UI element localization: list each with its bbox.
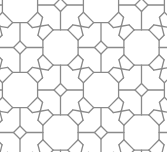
pentagon-edge [81,67,89,68]
pentagon-edge [89,67,94,72]
pentagon-edge [89,23,94,28]
pentagon-edge [38,97,43,102]
pentagon-edge [73,25,81,26]
pentagon-edge [78,69,80,78]
pentagon-edge [38,120,43,125]
pentagon-edge [119,55,124,60]
pentagon-edge [119,120,124,125]
pentagon-edge [32,67,40,68]
pentagon-edge [48,150,53,152]
octagon-tile [164,72,167,107]
pentagon-edge [8,108,13,113]
pentagon-edge [149,25,154,30]
square-tile [95,41,108,54]
pentagon-edge [40,69,42,78]
pentagon-edge [81,60,83,69]
pentagon-edge [0,12,2,17]
pentagon-edge [119,78,124,83]
pentagon-edge [68,110,73,115]
pentagon-edge [162,145,164,152]
pentagon-edge [159,69,161,78]
pentagon-edge [0,26,8,27]
pentagon-edge [159,78,164,83]
pentagon-edge [162,26,164,35]
pentagon-edge [32,26,40,27]
pentagon-edge [27,67,32,72]
pentagon-edge [8,23,13,28]
tiling-diagram [0,0,167,152]
pentagon-edge [119,111,121,120]
pentagon-edge [68,65,73,70]
pentagon-edge [149,150,154,152]
pentagon-edge [78,17,80,26]
pentagon-edge [27,108,32,113]
pentagon-edge [27,23,32,28]
pentagon-edge [38,12,43,17]
pentagon-edge [78,12,83,17]
pentagon-edge [149,65,154,70]
pentagon-edge [40,102,42,111]
pentagon-edge [149,110,154,115]
pentagon-edge [119,97,124,102]
pentagon-edge [68,25,73,30]
pentagon-edge [0,140,2,145]
pentagon-edge [159,35,164,40]
pentagon-edge [81,26,83,35]
pentagon-edge [121,25,129,26]
pentagon-edge [78,55,83,60]
pentagon-edge [159,120,164,125]
pentagon-edge [0,111,2,120]
square-tile [135,84,148,97]
pentagon-edge [0,55,2,60]
pentagon-edge [8,67,13,72]
pentagon-edge [78,140,83,145]
pentagon-edge [119,35,124,40]
pentagon-edge [121,69,129,70]
pentagon-edge [48,65,53,70]
pentagon-edge [159,17,161,26]
pentagon-edge [113,26,121,27]
pentagon-edge [129,65,134,70]
pentagon-edge [38,111,40,120]
pentagon-edge [38,60,40,69]
pentagon-edge [81,111,89,112]
pentagon-edge [38,35,43,40]
octagon-tile [164,0,167,23]
pentagon-edge [119,26,121,35]
pentagon-edge [121,102,123,111]
pentagon-edge [129,25,134,30]
pentagon-edge [0,60,2,69]
octagon-tile [2,0,37,23]
pentagon-edge [159,97,164,102]
pentagon-edge [108,108,113,113]
pentagon-edge [81,26,89,27]
pentagon-edge [129,150,134,152]
pentagon-edge [121,17,123,26]
pentagon-edge [73,110,81,111]
octagon-tile [124,115,159,150]
octagon-tile [83,72,118,107]
pentagon-edge [40,25,48,26]
pentagon-edge [48,25,53,30]
pentagon-edge [0,111,8,112]
square-tile [135,0,148,12]
pentagon-edge [129,110,134,115]
pentagon-edge [38,26,40,35]
pentagon-edge [0,26,2,35]
pentagon-edge [40,17,42,26]
pentagon-edge [0,35,2,40]
pentagon-edge [68,150,73,152]
pentagon-edge [32,111,40,112]
pentagon-edge [159,55,164,60]
octagon-tile [43,30,78,65]
pentagon-edge [38,140,43,145]
pentagon-edge [162,111,164,120]
pentagon-edge [81,145,83,152]
square-tile [14,126,27,139]
pentagon-edge [113,67,121,68]
pentagon-edge [119,145,121,152]
pentagon-edge [154,69,162,70]
pentagon-edge [159,140,164,145]
pentagon-edge [73,69,81,70]
pentagon-edge [78,78,83,83]
